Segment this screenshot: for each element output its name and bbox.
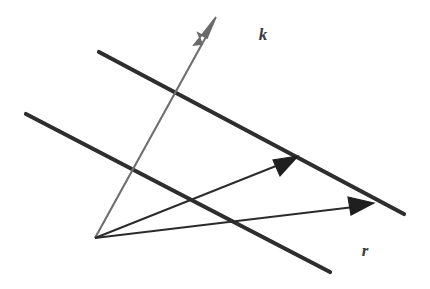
vector-diagram: k r	[0, 0, 430, 289]
label-k: k	[259, 25, 268, 44]
label-r: r	[362, 241, 369, 260]
diagram-canvas: k r	[0, 0, 430, 289]
